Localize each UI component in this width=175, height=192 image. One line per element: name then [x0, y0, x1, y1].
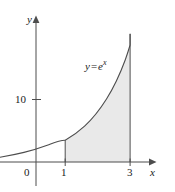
y-axis-label: y	[27, 14, 32, 25]
x-tick-label-3: 3	[127, 167, 133, 178]
curve-equation-label: y=ex	[85, 59, 107, 72]
x-axis-arrowhead	[149, 159, 157, 166]
exponential-area-figure: y x 0 1 3 10 y=ex	[0, 0, 175, 192]
plot-canvas	[0, 0, 175, 192]
curve-equation-equals: =	[90, 60, 98, 72]
y-axis-arrowhead	[33, 16, 40, 24]
x-tick-label-1: 1	[61, 167, 67, 178]
x-axis-label: x	[150, 167, 155, 178]
y-tick-label-10: 10	[15, 94, 26, 105]
shaded-area-region	[65, 34, 130, 162]
origin-label: 0	[24, 167, 30, 178]
curve-equation-exponent: x	[103, 58, 107, 67]
